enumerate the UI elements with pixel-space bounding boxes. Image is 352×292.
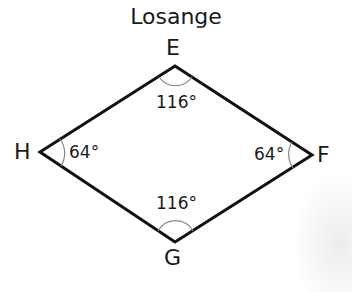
vertex-label-h: H [14,141,31,163]
vertex-label-f: F [317,144,330,166]
angle-label-g: 116° [156,195,197,212]
angle-label-e: 116° [156,94,197,111]
vertex-label-g: G [164,247,181,269]
angle-arc-f [289,142,293,168]
angle-arc-g [158,221,193,231]
vertex-label-e: E [166,37,180,59]
angle-label-f: 64° [254,146,284,163]
angle-label-h: 64° [69,144,99,161]
rhombus-diagram: Losange E F G H 116° 64° 116° 64° [0,0,352,292]
angle-arc-h [60,139,65,166]
angle-arc-e [159,77,192,86]
